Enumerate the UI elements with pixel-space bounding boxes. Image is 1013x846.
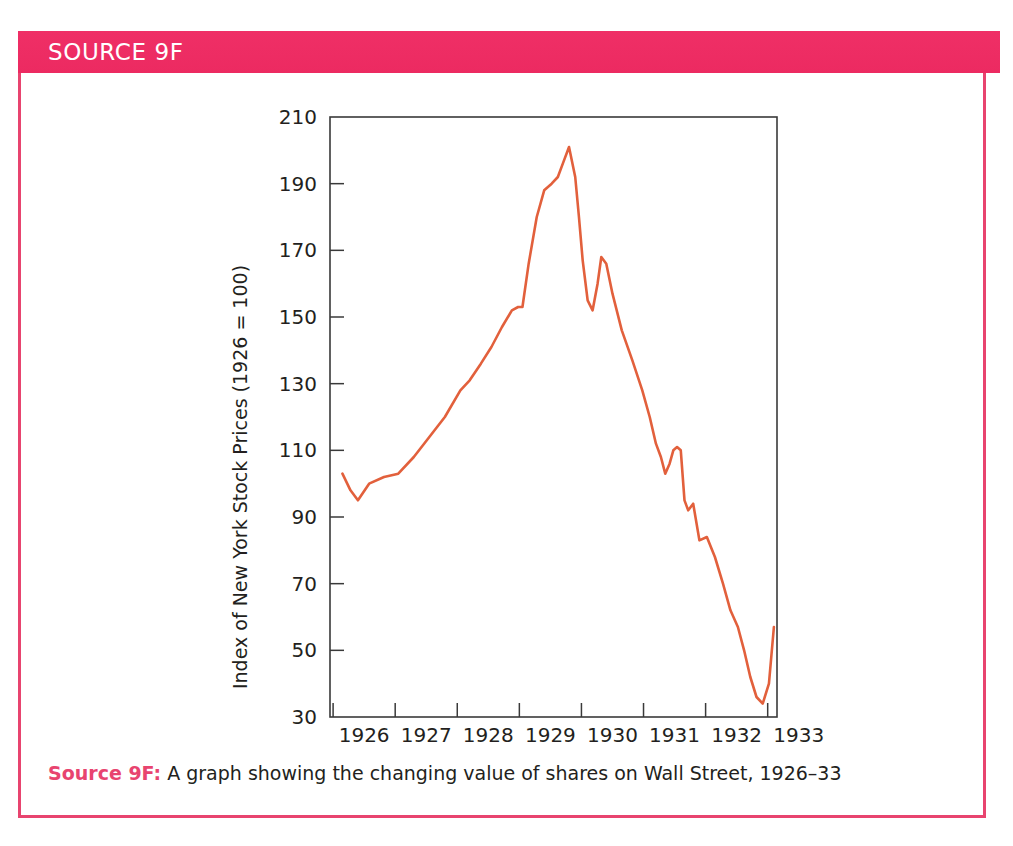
- y-tick-label: 70: [292, 572, 317, 596]
- line-chart: Index of New York Stock Prices (1926 = 1…: [0, 73, 986, 745]
- caption: Source 9F: A graph showing the changing …: [48, 762, 948, 784]
- plot-area-frame: [330, 117, 777, 717]
- x-tick-label: 1927: [401, 723, 452, 745]
- y-tick-label: 130: [279, 372, 317, 396]
- caption-label: Source 9F:: [48, 762, 161, 784]
- y-tick-label: 210: [279, 105, 317, 129]
- y-axis-ticks: 30507090110130150170190210: [279, 105, 344, 729]
- x-tick-label: 1929: [525, 723, 576, 745]
- x-tick-label: 1933: [773, 723, 824, 745]
- y-tick-label: 50: [292, 638, 317, 662]
- y-tick-label: 170: [279, 238, 317, 262]
- stock-price-line: [342, 147, 773, 704]
- x-tick-label: 1928: [463, 723, 514, 745]
- x-axis-ticks: 19261927192819291930193119321933: [333, 703, 824, 745]
- y-tick-label: 190: [279, 172, 317, 196]
- source-header-bar: SOURCE 9F: [18, 31, 1000, 73]
- caption-text: A graph showing the changing value of sh…: [161, 762, 841, 784]
- y-axis-title: Index of New York Stock Prices (1926 = 1…: [229, 265, 251, 689]
- y-tick-label: 90: [292, 505, 317, 529]
- y-tick-label: 150: [279, 305, 317, 329]
- y-axis-title-group: Index of New York Stock Prices (1926 = 1…: [229, 265, 251, 689]
- chart-container: Index of New York Stock Prices (1926 = 1…: [0, 73, 986, 745]
- source-header-title: SOURCE 9F: [48, 39, 184, 65]
- y-tick-label: 110: [279, 438, 317, 462]
- x-tick-label: 1926: [339, 723, 390, 745]
- y-tick-label: 30: [292, 705, 317, 729]
- x-tick-label: 1931: [649, 723, 700, 745]
- x-tick-label: 1930: [587, 723, 638, 745]
- x-tick-label: 1932: [711, 723, 762, 745]
